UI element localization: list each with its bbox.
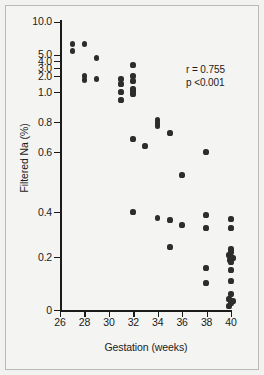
y-tick-10 bbox=[54, 22, 60, 23]
x-tick-label-30: 30 bbox=[97, 316, 121, 328]
y-tick-1 bbox=[54, 92, 60, 93]
data-point bbox=[226, 303, 231, 308]
data-point bbox=[130, 136, 135, 141]
data-point bbox=[82, 41, 87, 46]
data-point bbox=[167, 130, 172, 135]
y-tick-label-10: 10.0 bbox=[16, 16, 52, 26]
data-point bbox=[118, 81, 123, 86]
data-point bbox=[167, 244, 172, 249]
data-point bbox=[130, 62, 135, 67]
data-point bbox=[70, 48, 75, 53]
data-point bbox=[70, 41, 75, 46]
data-point bbox=[130, 209, 135, 214]
data-point bbox=[179, 172, 184, 177]
data-point bbox=[179, 222, 184, 227]
x-tick-label-26: 26 bbox=[48, 316, 72, 328]
x-tick-label-40: 40 bbox=[219, 316, 243, 328]
x-tick-label-34: 34 bbox=[146, 316, 170, 328]
data-point bbox=[228, 278, 233, 283]
y-axis-line bbox=[60, 20, 62, 312]
x-tick-label-36: 36 bbox=[170, 316, 194, 328]
y-tick-label-2: 2.0 bbox=[16, 71, 52, 81]
y-tick-label-0.2: 0.2 bbox=[16, 252, 52, 262]
pvalue: p <0.001 bbox=[186, 76, 225, 89]
data-point bbox=[203, 225, 208, 230]
statistics-annotation: r = 0.755 p <0.001 bbox=[186, 63, 225, 89]
data-point bbox=[82, 77, 87, 82]
y-tick-0.4 bbox=[54, 212, 60, 213]
x-tick-label-38: 38 bbox=[195, 316, 219, 328]
data-point bbox=[228, 225, 233, 230]
y-tick-2 bbox=[54, 76, 60, 77]
y-axis-title: Filtered Na (%) bbox=[18, 88, 30, 228]
data-point bbox=[155, 123, 160, 128]
y-tick-3 bbox=[54, 68, 60, 69]
data-point bbox=[94, 76, 99, 81]
data-point bbox=[118, 97, 123, 102]
y-tick-label-0: 0 bbox=[16, 305, 52, 315]
data-point bbox=[130, 91, 135, 96]
data-point bbox=[203, 149, 208, 154]
data-point bbox=[203, 280, 208, 285]
y-tick-0.2 bbox=[54, 257, 60, 258]
data-point bbox=[142, 143, 147, 148]
correlation-value: r = 0.755 bbox=[186, 63, 225, 76]
data-point bbox=[130, 78, 135, 83]
scatter-plot-panel: 10.0 5.0 4.0 3.0 2.0 1.0 0.8 0.6 0.4 0.2… bbox=[0, 0, 264, 375]
data-point bbox=[167, 217, 172, 222]
figure-container: 10.0 5.0 4.0 3.0 2.0 1.0 0.8 0.6 0.4 0.2… bbox=[0, 0, 264, 375]
x-axis-title: Gestation (weeks) bbox=[60, 341, 232, 353]
data-point bbox=[203, 212, 208, 217]
data-point bbox=[118, 89, 123, 94]
y-tick-4 bbox=[54, 61, 60, 62]
data-point bbox=[228, 267, 233, 272]
y-tick-5 bbox=[54, 55, 60, 56]
data-point bbox=[228, 259, 233, 264]
x-tick-label-32: 32 bbox=[121, 316, 145, 328]
data-point bbox=[155, 215, 160, 220]
data-point bbox=[203, 265, 208, 270]
y-tick-0.6 bbox=[54, 152, 60, 153]
data-point bbox=[228, 216, 233, 221]
y-tick-0.8 bbox=[54, 122, 60, 123]
data-point bbox=[94, 55, 99, 60]
x-tick-label-28: 28 bbox=[72, 316, 96, 328]
